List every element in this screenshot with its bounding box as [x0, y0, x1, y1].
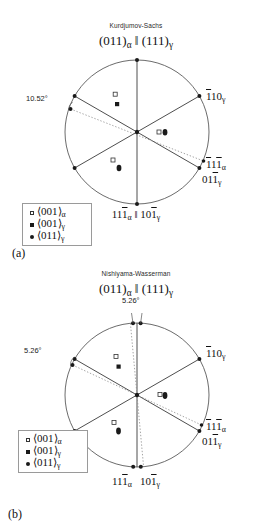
relation-right-subscript: γ [169, 40, 173, 50]
rim-pole-lower-left [73, 166, 77, 170]
pole-011-gamma-lower [116, 428, 121, 435]
pole-001-alpha-lower [111, 158, 115, 162]
legend-item-011-gamma: ⟨011⟩γ [27, 231, 86, 243]
pole-011-gamma-right [163, 392, 168, 399]
rim-pole-bottom [135, 202, 139, 206]
panel-b-title: Nishiyama-Wasserman [0, 270, 272, 277]
pole-011-gamma-right [163, 129, 168, 135]
relation-right-subscript: γ [169, 288, 173, 298]
rim-pole-bottom-gamma [139, 465, 143, 469]
rim-pole-upper-left [73, 357, 77, 361]
pole-001-alpha-upper [114, 355, 118, 359]
relation-parallel-symbol: ‖ [135, 281, 139, 296]
panel-kurdjumov-sachs: Kurdjumov-Sachs (011)α ‖ (111)γ [0, 0, 272, 270]
angle-label-left-b: 5.26° [24, 346, 42, 355]
center-pole [135, 130, 139, 134]
relation-left-subscript: α [127, 40, 132, 50]
rim-pole-lower-right-rotated [200, 423, 204, 427]
pole-label-1bar10-gamma-b: 110γ [206, 347, 226, 361]
pole-001-gamma-upper [115, 102, 119, 106]
relation-right-plane: (111) [142, 281, 169, 296]
rim-pole-upper-right [197, 94, 201, 98]
rim-pole-bottom-alpha [131, 465, 135, 469]
legend-panel-a: ⟨001⟩α ⟨001⟩γ ⟨011⟩γ [22, 203, 92, 246]
pole-label-1bar10-gamma-a: 110γ [206, 90, 226, 104]
legend-panel-b: ⟨001⟩α ⟨001⟩γ ⟨011⟩γ [18, 430, 88, 473]
bottom-pole-pair-label-b: 111α 101γ [0, 475, 272, 489]
rim-pole-lower-right [197, 429, 201, 433]
relation-left-plane: (011) [99, 281, 127, 296]
legend-item-011-gamma: ⟨011⟩γ [23, 458, 82, 470]
panel-a-letter: (a) [12, 246, 25, 261]
pole-001-alpha-lower [112, 421, 116, 425]
rim-pole-lower-right [197, 166, 201, 170]
panel-b-letter: (b) [8, 507, 22, 522]
filled-circle-icon [27, 235, 37, 240]
filled-square-icon [27, 223, 37, 227]
rim-pole-upper-left [73, 94, 77, 98]
filled-circle-icon [23, 462, 33, 467]
panel-a-title: Kurdjumov-Sachs [0, 22, 272, 29]
panel-a-orientation-relation: (011)α ‖ (111)γ [0, 33, 272, 50]
pole-label-1bar11bar-alpha-b: 111α [206, 420, 226, 434]
pole-001-alpha-upper [113, 92, 117, 96]
angle-label-top-b: 5.26° [122, 296, 140, 305]
rim-pole-upper-left-rotated [71, 363, 75, 367]
relation-right-plane: (111) [142, 33, 169, 48]
rim-pole-top [135, 58, 139, 62]
relation-left-plane: (011) [99, 33, 127, 48]
relation-parallel-symbol: ‖ [135, 33, 139, 48]
rim-pole-upper-right [197, 357, 201, 361]
angle-label-left-a: 10.52° [26, 94, 48, 103]
pole-label-1bar11bar-alpha-a: 111α [206, 158, 226, 172]
pole-001-alpha-right [158, 393, 162, 397]
open-square-icon [27, 211, 37, 215]
filled-square-icon [23, 450, 33, 454]
pole-011-gamma-lower [117, 165, 122, 171]
rim-pole-lower-right-rotated [202, 159, 206, 163]
open-square-icon [23, 438, 33, 442]
panel-nishiyama-wasserman: Nishiyama-Wasserman (011)α ‖ (111)γ 5.26… [0, 262, 272, 530]
pole-label-011bar-gamma-b: 011γ [202, 435, 222, 449]
center-pole [135, 393, 139, 397]
pole-001-gamma-upper [117, 365, 121, 369]
stereographic-projection-a [52, 52, 222, 220]
pole-001-alpha-right [157, 130, 161, 134]
pole-label-011bar-gamma-a: 011γ [202, 173, 222, 187]
